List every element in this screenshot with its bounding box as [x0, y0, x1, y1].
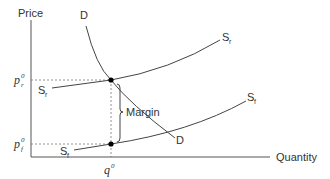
- svg-text:p: p: [13, 137, 20, 151]
- x-axis-label: Quantity: [276, 151, 317, 163]
- svg-text:0: 0: [21, 136, 25, 144]
- retail-supply-label-right: S r: [222, 31, 232, 45]
- retail-supply-curve: [52, 40, 220, 88]
- farm-supply-label-right: S f: [247, 91, 256, 105]
- farm-supply-curve: [74, 101, 246, 150]
- retail-supply-label-left: S r: [38, 84, 48, 98]
- svg-text:f: f: [21, 145, 24, 153]
- supply-demand-diagram: Price Quantity Margin D D S r S r S f S …: [0, 0, 330, 179]
- svg-text:r: r: [21, 81, 24, 89]
- demand-label-end: D: [176, 134, 184, 146]
- svg-text:p: p: [13, 73, 20, 87]
- svg-text:0: 0: [111, 162, 115, 170]
- farm-supply-label-left: S f: [60, 145, 69, 159]
- retail-equilibrium-dot: [108, 77, 113, 82]
- q0-label: q 0: [104, 162, 115, 177]
- margin-label: Margin: [126, 106, 160, 118]
- y-axis-label: Price: [18, 7, 43, 19]
- svg-text:r: r: [45, 91, 48, 98]
- svg-text:r: r: [229, 38, 232, 45]
- pf0-label: p 0 f: [13, 136, 25, 153]
- svg-text:f: f: [254, 98, 256, 105]
- svg-text:0: 0: [21, 72, 25, 80]
- svg-text:f: f: [67, 152, 69, 159]
- pr0-label: p 0 r: [13, 72, 25, 89]
- farm-equilibrium-dot: [108, 141, 113, 146]
- svg-text:q: q: [104, 163, 110, 177]
- demand-label-top: D: [80, 9, 88, 21]
